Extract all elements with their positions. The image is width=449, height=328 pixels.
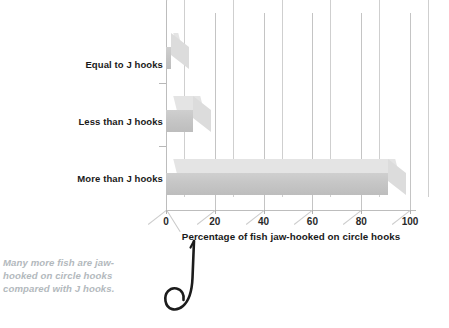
x-axis-line bbox=[166, 210, 416, 211]
y-axis-tick bbox=[159, 83, 166, 84]
y-axis-tick bbox=[159, 146, 166, 147]
bar-side-face bbox=[171, 33, 189, 69]
x-axis-tick bbox=[264, 210, 265, 214]
x-axis-tick-label: 20 bbox=[195, 216, 235, 227]
plot-area: 020406080100 bbox=[166, 20, 410, 210]
bar bbox=[166, 173, 388, 195]
fish-hook-icon bbox=[163, 238, 243, 328]
bar-front-face bbox=[166, 110, 193, 132]
bar-front-face bbox=[166, 47, 171, 69]
chart-caption: Many more fish are jaw-hooked on circle … bbox=[3, 256, 131, 296]
bar-top-face bbox=[173, 159, 399, 173]
bar-side-face bbox=[193, 96, 211, 132]
bar-front-face bbox=[166, 173, 388, 195]
x-axis-tick bbox=[410, 210, 411, 214]
gridline-back bbox=[428, 0, 429, 197]
x-axis-tick-label: 0 bbox=[146, 216, 186, 227]
category-label-less-than-j-hooks: Less than J hooks bbox=[13, 116, 163, 127]
wall-top-edge bbox=[166, 0, 185, 1]
category-label-equal-to-j-hooks: Equal to J hooks bbox=[13, 59, 163, 70]
bar bbox=[166, 110, 193, 132]
x-axis-tick-label: 100 bbox=[390, 216, 430, 227]
x-axis-tick bbox=[312, 210, 313, 214]
x-axis-tick-label: 60 bbox=[292, 216, 332, 227]
x-axis-tick-label: 40 bbox=[244, 216, 284, 227]
category-label-more-than-j-hooks: More than J hooks bbox=[13, 173, 163, 184]
x-axis-tick bbox=[215, 210, 216, 214]
bar bbox=[166, 47, 171, 69]
x-axis-tick bbox=[166, 210, 167, 214]
bar-side-face bbox=[388, 159, 406, 195]
x-axis-tick-label: 80 bbox=[341, 216, 381, 227]
x-axis-tick bbox=[361, 210, 362, 214]
gridline bbox=[410, 13, 411, 210]
bar-chart: Equal to J hooks Less than J hooks More … bbox=[0, 0, 449, 328]
